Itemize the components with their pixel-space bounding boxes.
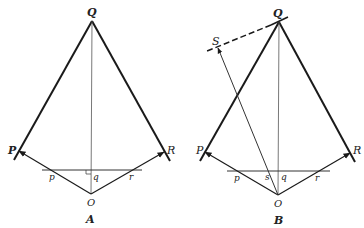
arrow-op-a [19,151,91,194]
label-q-intersect-a: q [93,172,99,182]
line-qp-a [14,21,92,160]
label-p-point-a: P [7,144,17,157]
figure-a: Q P R O p q r A [7,6,175,226]
label-r-point-b: R [352,144,361,157]
label-o-point-a: O [87,197,95,208]
arrow-or-b [278,153,350,195]
label-s-point-b: S [212,35,220,48]
arrow-or-a [91,152,164,194]
label-r-point-a: R [166,144,175,157]
caption-b: B [273,214,283,227]
line-qr-a [92,21,170,161]
line-qo-b [278,22,279,195]
diagram-canvas: Q P R O p q r A Q S P R O p s q r B [0,0,364,228]
label-p-point-b: P [195,144,204,157]
line-qr-b [279,22,355,162]
caption-a: A [85,213,95,226]
label-p-intersect-a: p [49,172,55,182]
line-qo-a [91,21,92,194]
label-q-point-b: Q [273,7,283,20]
right-angle-mark-a [86,170,91,174]
label-o-point-b: O [274,198,282,209]
figure-b: Q S P R O p s q r B [195,7,361,227]
label-s-intersect-b: s [265,172,270,182]
label-r-intersect-a: r [129,172,134,182]
label-q-intersect-b: q [281,172,287,182]
label-r-intersect-b: r [315,173,320,183]
label-p-intersect-b: p [234,173,240,183]
label-q-point-a: Q [87,6,97,19]
